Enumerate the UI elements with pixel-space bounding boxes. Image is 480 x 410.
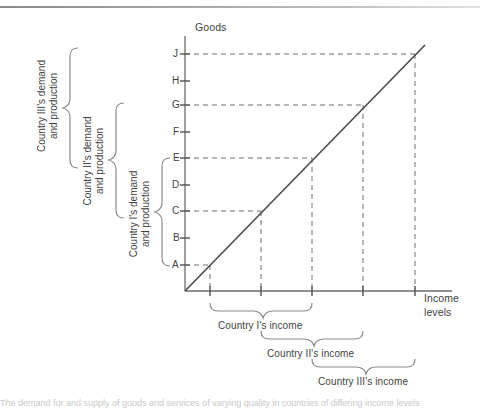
left-brace-label-country-3-line1: Country III's demand xyxy=(36,40,48,172)
left-brace-label-country-3-line2: and production xyxy=(48,40,60,172)
bottom-brace-country-2 xyxy=(261,331,363,346)
left-brace-label-country-2-line1: Country II's demand xyxy=(82,98,94,224)
y-tick-label-A: A xyxy=(172,259,179,270)
y-tick-label-G: G xyxy=(172,99,180,110)
bottom-brace-label-country-3: Country III's income xyxy=(318,376,408,387)
left-brace-country-3 xyxy=(63,48,78,168)
forty-five-degree-line xyxy=(185,45,425,291)
y-tick-label-F: F xyxy=(173,126,179,137)
y-tick-label-H: H xyxy=(172,75,179,86)
y-tick-label-B: B xyxy=(173,232,180,243)
income-goods-diagram xyxy=(0,0,480,410)
left-brace-country-1 xyxy=(155,158,170,266)
y-axis-title: Goods xyxy=(195,21,226,33)
y-tick-label-D: D xyxy=(172,179,179,190)
left-brace-label-country-1-line2: and production xyxy=(140,154,152,274)
figure-caption: The demand for and supply of goods and s… xyxy=(0,398,480,409)
bottom-brace-label-country-2: Country II's income xyxy=(267,348,354,359)
left-brace-country-2 xyxy=(109,103,124,218)
left-brace-label-country-3: Country III's demand and production xyxy=(36,40,60,172)
y-tick-label-J: J xyxy=(173,48,178,59)
y-tick-label-C: C xyxy=(172,205,179,216)
left-brace-label-country-1: Country I's demand and production xyxy=(128,154,152,274)
bottom-brace-country-3 xyxy=(312,359,415,374)
bottom-brace-country-1 xyxy=(210,303,312,318)
bottom-brace-label-country-1: Country I's income xyxy=(218,320,302,331)
x-axis-title-line2: levels xyxy=(424,306,451,318)
y-tick-label-E: E xyxy=(173,152,180,163)
left-brace-label-country-1-line1: Country I's demand xyxy=(128,154,140,274)
axes-group xyxy=(185,36,452,291)
left-brace-label-country-2-line2: and production xyxy=(94,98,106,224)
left-brace-label-country-2: Country II's demand and production xyxy=(82,98,106,224)
x-axis-title-line1: Income xyxy=(424,292,459,304)
